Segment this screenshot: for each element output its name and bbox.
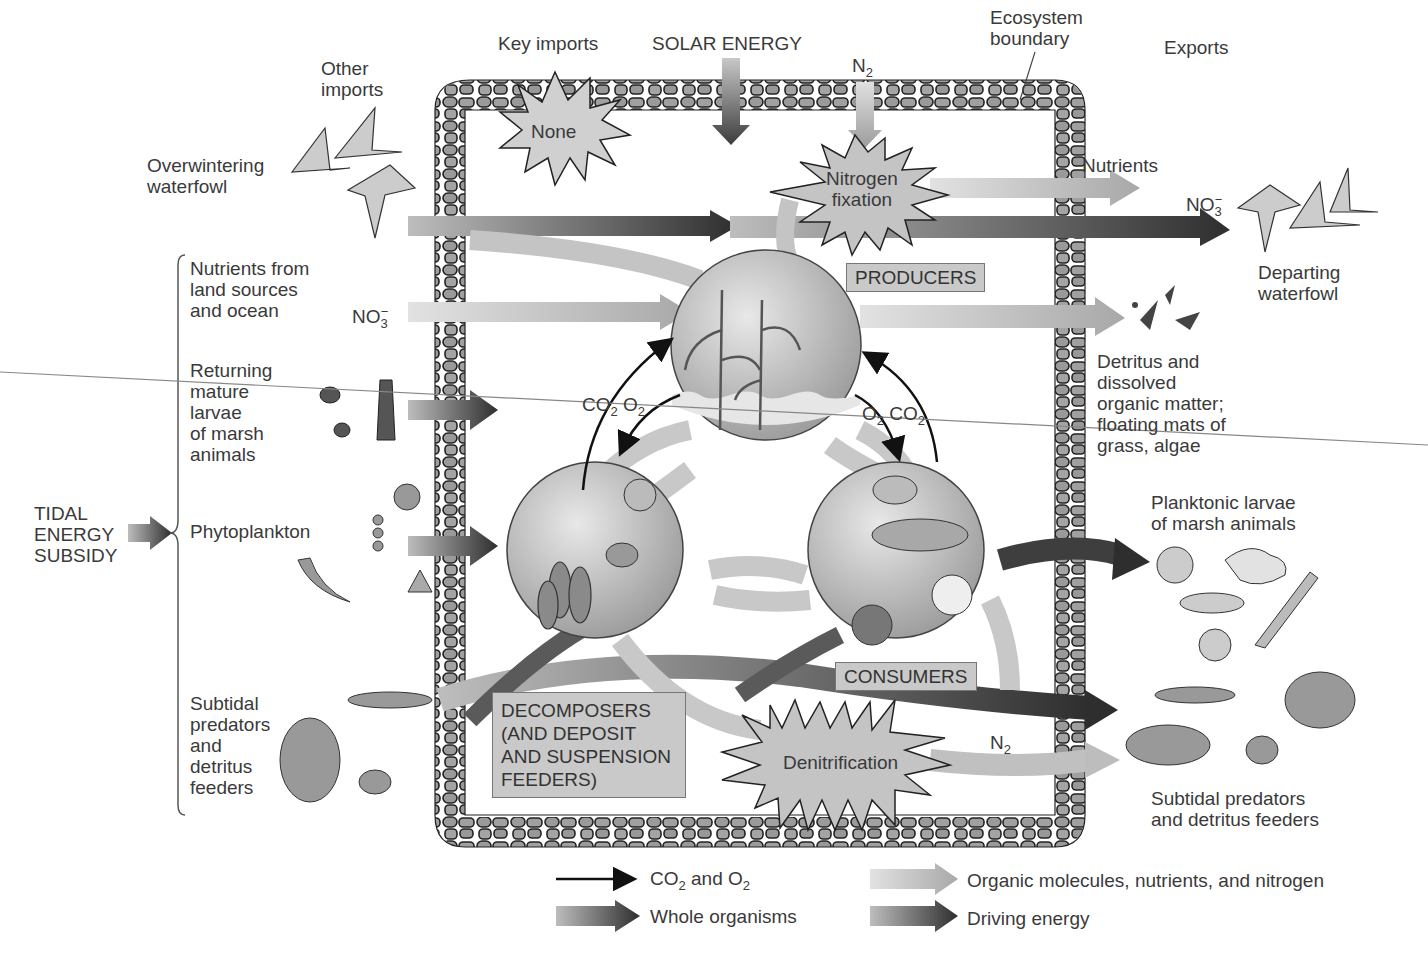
subtidal-import-label: Subtidalpredatorsanddetritusfeeders <box>190 693 270 798</box>
flow-into-producers <box>470 240 700 280</box>
overwintering-waterfowl-label: Overwinteringwaterfowl <box>147 155 264 197</box>
other-imports-label: Otherimports <box>321 58 383 100</box>
none-burst-label: None <box>531 121 576 142</box>
no3-import-label: NO3− <box>352 301 388 334</box>
waterfowl-export-arrow <box>730 208 1230 246</box>
solar-energy-label: SOLAR ENERGY <box>652 33 802 54</box>
detritus-label: Detritus anddissolvedorganic matter;floa… <box>1097 351 1226 456</box>
key-imports-label: Key imports <box>498 33 598 54</box>
legend-driving-energy-arrow <box>870 900 958 932</box>
subtidal-export-label: Subtidal predatorsand detritus feeders <box>1151 788 1319 830</box>
exports-label: Exports <box>1164 37 1228 58</box>
planktonic-larvae-label: Planktonic larvaeof marsh animals <box>1151 492 1296 534</box>
producers-box: PRODUCERS <box>846 263 985 292</box>
nutrients-land-ocean-label: Nutrients fromland sourcesand ocean <box>190 258 309 321</box>
snail-shell-icon <box>624 479 656 511</box>
legend-co2-o2-label: CO2 and O2 <box>650 868 750 896</box>
n2-export-arrowhead <box>1085 742 1120 778</box>
tidal-energy-arrow <box>128 516 172 550</box>
legend-organic-label: Organic molecules, nutrients, and nitrog… <box>967 870 1324 891</box>
bird-icon <box>932 575 972 615</box>
legend-driving-energy-label: Driving energy <box>967 908 1090 929</box>
legend-organic-arrow <box>870 863 958 895</box>
snail-icon <box>873 476 917 504</box>
gas-label-left: CO2 O2 <box>582 394 645 422</box>
decomposers-box: DECOMPOSERS (AND DEPOSIT AND SUSPENSION … <box>492 692 686 798</box>
denitrification-label: Denitrification <box>783 752 898 773</box>
returning-larvae-label: Returningmaturelarvaeof marshanimals <box>190 360 272 465</box>
phytoplankton-label: Phytoplankton <box>190 521 310 542</box>
consumers-box: CONSUMERS <box>835 662 977 691</box>
larvae-export-arrowhead <box>1112 538 1150 580</box>
n2-export-arrow <box>930 760 1090 765</box>
no3-export-label: NO3− <box>1186 189 1222 222</box>
n2-export-label: N2 <box>990 732 1011 760</box>
detritus-icon <box>1132 285 1200 330</box>
n2-input-label: N2 <box>852 55 873 83</box>
decomposers-circle <box>507 462 683 638</box>
nutrients-export-label: Nutrients <box>1082 155 1158 176</box>
tidal-energy-subsidy-label: TIDALENERGYSUBSIDY <box>34 503 117 566</box>
subtidal-animals-export-icons <box>1126 672 1355 765</box>
grasshopper-icon <box>872 519 968 551</box>
imports-brace <box>170 255 185 815</box>
legend-whole-organisms-label: Whole organisms <box>650 906 797 927</box>
subtidal-export-arrowhead <box>1085 690 1118 730</box>
nitrogen-fixation-label: Nitrogenfixation <box>826 168 898 210</box>
raccoon-icon <box>852 605 892 645</box>
larvae-export-arrow <box>1000 549 1120 560</box>
crab-icon <box>606 543 638 567</box>
gas-label-right: O2 CO2 <box>862 403 925 431</box>
subtidal-animals-import-icons <box>280 692 432 802</box>
overwintering-waterfowl-icon <box>292 108 415 238</box>
planktonic-larvae-icons <box>1157 547 1318 661</box>
legend-whole-organisms-arrow <box>556 900 640 932</box>
departing-waterfowl-icon <box>1238 168 1378 252</box>
ecosystem-boundary-label: Ecosystemboundary <box>990 7 1083 49</box>
departing-waterfowl-label: Departingwaterfowl <box>1258 262 1340 304</box>
